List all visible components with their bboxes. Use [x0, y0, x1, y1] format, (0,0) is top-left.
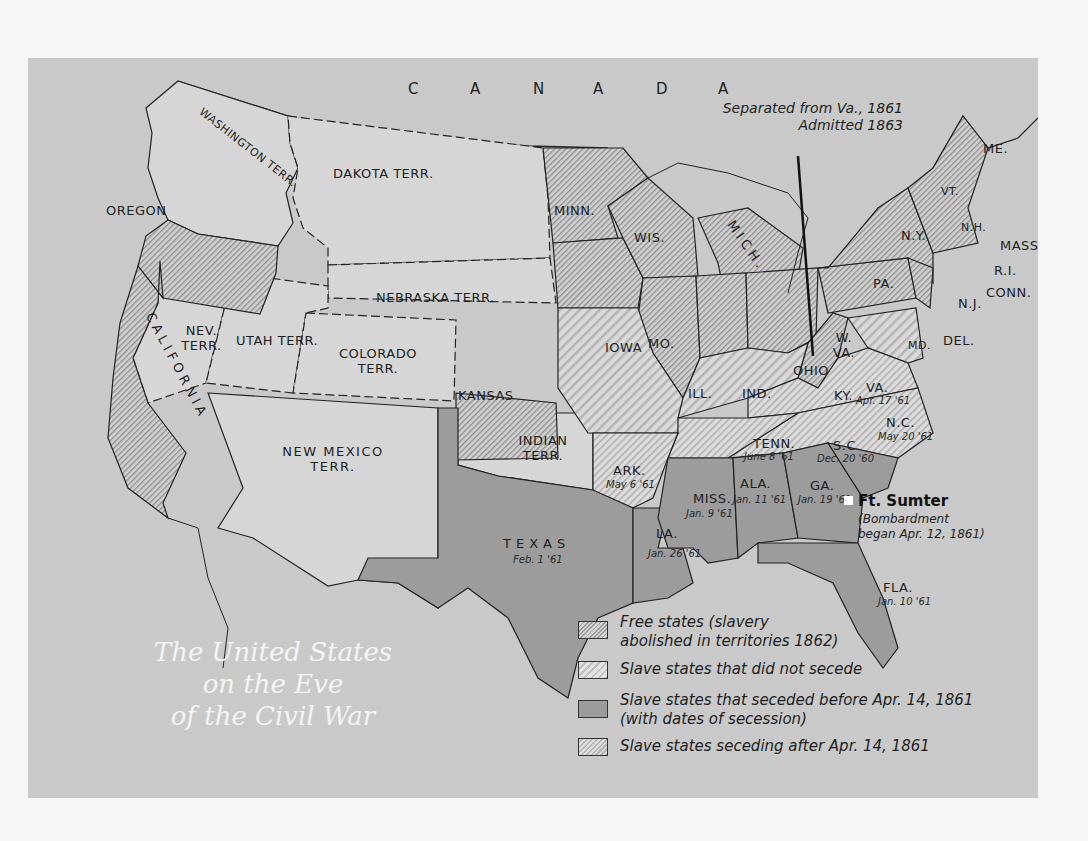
label-nc: N.C.: [886, 415, 915, 430]
label-va: VA.: [866, 380, 888, 395]
label-colorado-terr: COLORADO TERR.: [333, 346, 423, 376]
legend-swatch-border: [578, 661, 608, 679]
label-ky: KY.: [834, 388, 853, 403]
label-w-va: W. VA.: [830, 330, 858, 360]
label-md: MD.: [908, 338, 931, 353]
legend-swatch-seceded-after: [578, 738, 608, 756]
legend-text: Slave states that seceded before Apr. 14…: [620, 691, 973, 729]
canada-letter: A: [593, 80, 604, 98]
label-ala: ALA.: [740, 476, 771, 491]
legend-line: Free states (slavery: [620, 613, 838, 632]
canada-letter: D: [656, 80, 669, 98]
region-dakota-terr: [288, 116, 550, 265]
region-ind: [696, 273, 748, 358]
label-nev-terr: NEV. TERR.: [174, 323, 229, 353]
legend-text: Free states (slavery abolished in territ…: [620, 613, 838, 651]
date-sc: Dec. 20 '60: [817, 453, 874, 464]
date-ala: Jan. 11 '61: [733, 494, 786, 505]
label-minn: MINN.: [554, 203, 595, 218]
label-texas: TEXAS: [503, 536, 570, 551]
label-sc: S.C.: [833, 438, 861, 453]
label-ind: IND.: [742, 386, 772, 401]
label-iowa: IOWA: [605, 340, 642, 355]
label-ohio: OHIO: [793, 363, 829, 378]
label-conn: CONN.: [986, 285, 1031, 300]
label-oregon: OREGON: [106, 203, 167, 218]
label-me: ME.: [983, 141, 1008, 156]
wva-annotation: Separated from Va., 1861 Admitted 1863: [678, 100, 903, 134]
label-nh: N.H.: [961, 220, 986, 235]
canada-letter: A: [718, 80, 729, 98]
legend-line: Slave states that seceded before Apr. 14…: [620, 691, 973, 710]
date-tenn: June 8 '61: [744, 451, 794, 462]
date-texas: Feb. 1 '61: [513, 554, 563, 565]
title-line: The United States: [138, 636, 408, 668]
annotation-line: Separated from Va., 1861: [678, 100, 903, 117]
label-la: LA.: [656, 526, 678, 541]
date-la: Jan. 26 '61: [648, 548, 701, 559]
title-line: on the Eve: [138, 668, 408, 700]
label-fla: FLA.: [883, 580, 913, 595]
fort-sumter-note-line: (Bombardment: [858, 512, 985, 527]
fort-sumter-label: Ft. Sumter: [858, 492, 948, 510]
date-miss: Jan. 9 '61: [686, 508, 733, 519]
label-nebraska-terr: NEBRASKA TERR.: [376, 290, 495, 305]
map-panel: C A N A D A Separated from Va., 1861 Adm…: [28, 58, 1038, 798]
canada-letter: C: [408, 80, 419, 98]
label-ri: R.I.: [994, 263, 1017, 278]
label-kansas: KANSAS: [458, 388, 514, 403]
fort-sumter-note: (Bombardment began Apr. 12, 1861): [858, 512, 985, 542]
canada-letter: N: [533, 80, 545, 98]
label-ill: ILL.: [688, 386, 712, 401]
label-miss: MISS.: [693, 491, 731, 506]
fort-sumter-note-line: began Apr. 12, 1861): [858, 527, 985, 542]
label-dakota-terr: DAKOTA TERR.: [333, 166, 434, 181]
label-mo: MO.: [648, 336, 675, 351]
legend-line: abolished in territories 1862): [620, 632, 838, 651]
label-wis: WIS.: [634, 230, 665, 245]
label-ark: ARK.: [613, 463, 646, 478]
label-ga: GA.: [810, 478, 834, 493]
label-mass: MASS.: [1000, 238, 1038, 253]
legend-swatch-seceded-before: [578, 700, 608, 718]
label-utah-terr: UTAH TERR.: [236, 333, 318, 348]
annotation-line: Admitted 1863: [678, 117, 903, 134]
label-pa: PA.: [873, 276, 894, 291]
canada-letter: A: [470, 80, 481, 98]
label-tenn: TENN.: [753, 436, 795, 451]
legend-line: (with dates of secession): [620, 710, 973, 729]
label-nj: N.J.: [958, 296, 982, 311]
date-fla: Jan. 10 '61: [878, 596, 931, 607]
date-nc: May 20 '61: [878, 431, 933, 442]
label-indian-terr: INDIAN TERR.: [508, 433, 578, 463]
label-vt: VT.: [941, 184, 959, 199]
map-title: The United States on the Eve of the Civi…: [138, 636, 408, 732]
label-del: DEL.: [943, 333, 975, 348]
date-va: Apr. 17 '61: [856, 395, 910, 406]
date-ark: May 6 '61: [606, 479, 655, 490]
legend-text: Slave states that did not secede: [620, 660, 862, 679]
legend-text: Slave states seceding after Apr. 14, 186…: [620, 737, 930, 756]
label-ny: N.Y.: [901, 228, 926, 243]
fort-sumter-marker: [844, 496, 853, 505]
legend-swatch-free: [578, 621, 608, 639]
title-line: of the Civil War: [138, 700, 408, 732]
label-new-mexico-terr: NEW MEXICO TERR.: [268, 444, 398, 474]
